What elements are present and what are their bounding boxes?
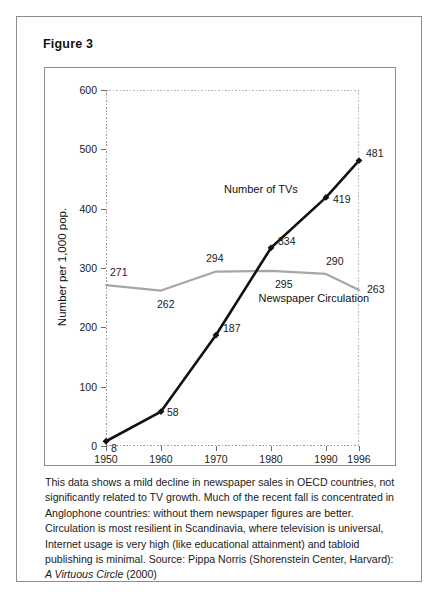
caption-text-part2: (2000) xyxy=(123,568,157,580)
x-tick xyxy=(106,446,107,451)
x-tick-label: 1996 xyxy=(347,453,370,465)
y-tick-label: 600 xyxy=(79,84,97,96)
x-tick xyxy=(359,446,360,451)
point-label-tvs: 419 xyxy=(333,193,351,205)
y-tick-label: 300 xyxy=(79,262,97,274)
series-label-tvs: Number of TVs xyxy=(224,183,298,195)
point-label-tvs: 8 xyxy=(111,442,117,454)
y-tick-label: 100 xyxy=(79,381,97,393)
y-tick-label: 500 xyxy=(79,143,97,155)
x-tick-label: 1960 xyxy=(149,453,172,465)
x-tick xyxy=(161,446,162,451)
chart-container: Number per 1,000 pop. 010020030040050060… xyxy=(44,67,396,466)
point-label-newspapers: 294 xyxy=(206,252,224,264)
point-label-tvs: 334 xyxy=(278,235,296,247)
x-tick xyxy=(271,446,272,451)
caption-text-part1: This data shows a mild decline in newspa… xyxy=(45,476,394,565)
point-label-tvs: 58 xyxy=(167,406,179,418)
x-tick-label: 1980 xyxy=(259,453,282,465)
y-axis-label-wrap: Number per 1,000 pop. xyxy=(62,68,63,465)
series-lines xyxy=(106,90,359,446)
caption-book-title: A Virtuous Circle xyxy=(45,568,123,580)
figure-caption: This data shows a mild decline in newspa… xyxy=(45,475,395,583)
figure-frame: Figure 3 Number per 1,000 pop. 010020030… xyxy=(16,16,422,582)
point-label-tvs: 187 xyxy=(223,322,241,334)
x-tick-label: 1970 xyxy=(204,453,227,465)
point-label-newspapers: 290 xyxy=(326,255,344,267)
x-tick-label: 1950 xyxy=(94,453,117,465)
y-tick-label: 200 xyxy=(79,321,97,333)
y-tick-label: 400 xyxy=(79,203,97,215)
series-line-newspapers xyxy=(106,271,359,291)
point-label-newspapers: 262 xyxy=(157,298,175,310)
figure-title: Figure 3 xyxy=(43,37,93,51)
series-label-newspapers: Newspaper Circulation xyxy=(259,292,370,304)
point-label-newspapers: 271 xyxy=(110,266,128,278)
y-axis-label: Number per 1,000 pop. xyxy=(56,207,68,325)
x-tick xyxy=(216,446,217,451)
point-label-tvs: 481 xyxy=(366,147,384,159)
point-label-newspapers: 295 xyxy=(275,278,293,290)
y-tick-label: 0 xyxy=(91,440,97,452)
x-tick xyxy=(326,446,327,451)
x-tick-label: 1990 xyxy=(314,453,337,465)
plot-area: 0100200300400500600 19501960197019801990… xyxy=(106,90,359,446)
point-label-newspapers: 263 xyxy=(367,283,385,295)
